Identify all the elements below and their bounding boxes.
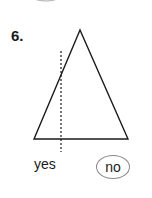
option-yes[interactable]: yes [34, 156, 56, 172]
triangle-shape [34, 30, 128, 139]
previous-answer-circle [32, 0, 60, 1]
option-no-circled[interactable]: no [96, 155, 130, 179]
problem-number: 6. [11, 27, 24, 44]
